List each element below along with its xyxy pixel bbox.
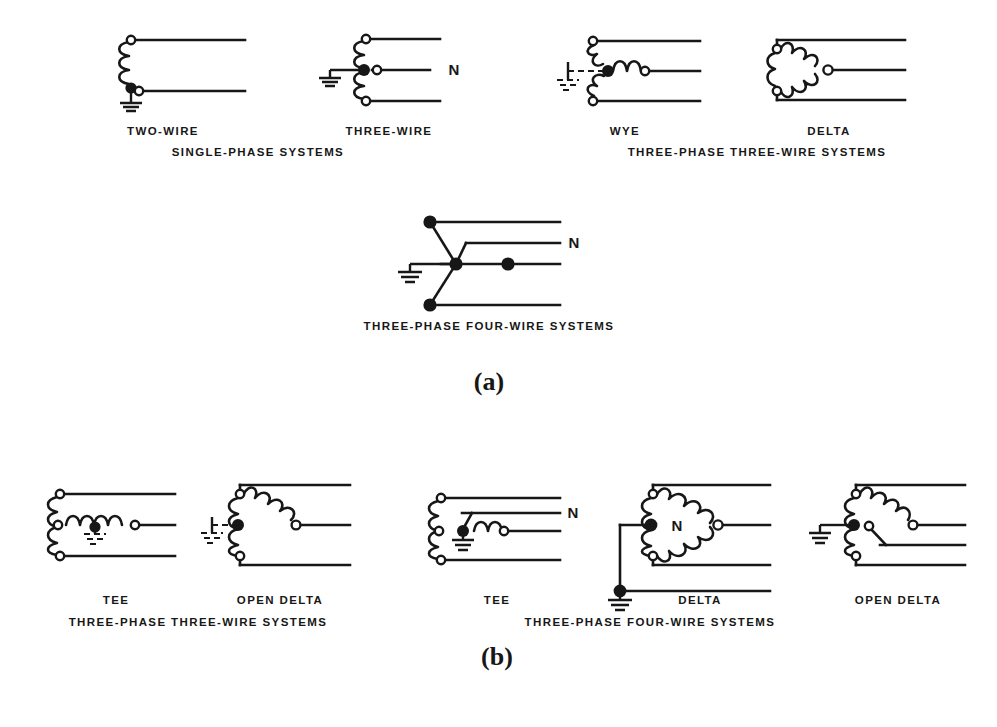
wye-winding-right-icon bbox=[613, 61, 641, 71]
label-single-phase-systems: SINGLE-PHASE SYSTEMS bbox=[172, 146, 344, 158]
caption-panel-b: (b) bbox=[481, 642, 513, 671]
diagram-canvas: TWO-WIRE N THREE-WIRE SINGLE-PHASE SYSTE… bbox=[0, 0, 997, 727]
label-delta-4w: DELTA bbox=[678, 594, 722, 606]
three-wire-terminal-open-center bbox=[373, 66, 381, 74]
label-neutral-four-wire: N bbox=[569, 234, 580, 251]
figure-root: TWO-WIRE N THREE-WIRE SINGLE-PHASE SYSTE… bbox=[0, 0, 997, 727]
od4-winding-upper-icon bbox=[859, 488, 910, 520]
od3-terminal-open-upper bbox=[236, 490, 244, 498]
delta-top-terminal-open-right bbox=[823, 65, 832, 74]
two-wire-terminal-open-bottom bbox=[135, 87, 143, 95]
tee4-terminal-open-right bbox=[500, 527, 508, 535]
od4-ground-icon bbox=[809, 533, 831, 543]
label-two-wire: TWO-WIRE bbox=[127, 125, 199, 137]
diagram-tee-4w bbox=[429, 494, 560, 564]
diagram-delta-4w bbox=[608, 485, 770, 610]
label-delta-top: DELTA bbox=[807, 125, 851, 137]
tee4-ground-icon bbox=[452, 540, 474, 550]
tee3-terminal-open-right bbox=[131, 521, 139, 529]
label-neutral-tee-4w: N bbox=[568, 504, 579, 521]
two-wire-winding-icon bbox=[119, 42, 129, 84]
label-neutral-delta-4w: N bbox=[672, 517, 683, 534]
diagram-open-delta-3w bbox=[201, 485, 350, 565]
three-wire-ground-icon bbox=[319, 78, 341, 86]
label-three-phase-three-wire-b: THREE-PHASE THREE-WIRE SYSTEMS bbox=[69, 616, 328, 628]
label-neutral-three-wire: N bbox=[449, 61, 460, 78]
od4-terminal-open-tap bbox=[865, 522, 873, 530]
tee4-winding-horizontal-icon bbox=[474, 522, 502, 531]
tee4-terminal-open-top bbox=[437, 494, 445, 502]
wye-terminal-open-right bbox=[641, 67, 649, 75]
od4-terminal-open-upper bbox=[852, 490, 860, 498]
four-wire-arm-upper bbox=[430, 222, 456, 264]
od4-terminal-open-right bbox=[909, 521, 918, 530]
od3-terminal-open-lower bbox=[236, 552, 244, 560]
two-wire-terminal-open-top bbox=[127, 36, 135, 44]
wye-terminal-open-top bbox=[589, 37, 597, 45]
label-wye: WYE bbox=[610, 125, 640, 137]
tee3-terminal-open-bottom bbox=[56, 552, 64, 560]
three-wire-winding-lower-icon bbox=[354, 72, 364, 99]
wye-winding-upper-icon bbox=[588, 45, 603, 66]
delta4-winding-upper-icon bbox=[656, 489, 713, 523]
four-wire-terminal-filled-right bbox=[501, 257, 514, 270]
label-tee-3w: TEE bbox=[103, 594, 130, 606]
tee3-ground-icon bbox=[84, 534, 106, 544]
four-wire-ground-icon bbox=[398, 272, 422, 282]
diagram-tee-3w bbox=[48, 490, 175, 560]
od3-winding-upper-icon bbox=[243, 488, 294, 520]
od4-terminal-open-lower bbox=[852, 552, 860, 560]
tee4-terminal-open-bottom bbox=[437, 556, 445, 564]
od3-ground-icon bbox=[201, 533, 223, 543]
three-wire-terminal-open-bottom bbox=[362, 97, 370, 105]
label-open-delta-3w: OPEN DELTA bbox=[237, 594, 323, 606]
label-three-phase-four-wire-b: THREE-PHASE FOUR-WIRE SYSTEMS bbox=[525, 616, 776, 628]
four-wire-terminal-filled-top bbox=[423, 215, 436, 228]
two-wire-ground-icon bbox=[120, 103, 142, 111]
delta-top-winding-upper-icon bbox=[780, 43, 818, 66]
three-wire-terminal-open-top bbox=[362, 35, 370, 43]
wye-ground-icon bbox=[557, 80, 579, 90]
label-three-wire: THREE-WIRE bbox=[346, 125, 433, 137]
four-wire-terminal-filled-bottom bbox=[423, 298, 436, 311]
wye-winding-lower-icon bbox=[588, 75, 604, 96]
diagram-open-delta-4w bbox=[809, 485, 965, 565]
tee3-terminal-open-top bbox=[56, 490, 64, 498]
caption-panel-a: (a) bbox=[474, 367, 504, 396]
diagram-three-wire bbox=[319, 35, 440, 105]
tee3-terminal-open-center bbox=[54, 521, 62, 529]
four-wire-arm-lower bbox=[430, 264, 456, 305]
delta4-terminal-open-right bbox=[713, 520, 722, 529]
three-wire-winding-upper-icon bbox=[354, 41, 364, 68]
wye-terminal-open-bottom bbox=[589, 97, 597, 105]
label-open-delta-4w: OPEN DELTA bbox=[855, 594, 941, 606]
diagram-delta-top bbox=[768, 40, 906, 100]
od3-terminal-open-right bbox=[292, 521, 301, 530]
delta4-terminal-open-lower bbox=[649, 552, 657, 560]
delta-top-winding-left-icon bbox=[768, 53, 776, 86]
diagram-two-wire bbox=[119, 36, 245, 111]
delta-top-terminal-open-upper bbox=[773, 45, 781, 53]
delta4-winding-lower-icon bbox=[656, 527, 713, 561]
label-tee-4w: TEE bbox=[484, 594, 511, 606]
delta4-ground-icon bbox=[608, 600, 632, 610]
label-three-phase-three-wire-a: THREE-PHASE THREE-WIRE SYSTEMS bbox=[628, 146, 887, 158]
tee4-terminal-open-center bbox=[435, 527, 443, 535]
diagram-four-wire-wye bbox=[398, 215, 560, 311]
label-three-phase-four-wire-a: THREE-PHASE FOUR-WIRE SYSTEMS bbox=[364, 320, 615, 332]
delta-top-terminal-open-lower bbox=[773, 87, 781, 95]
delta4-terminal-open-upper bbox=[649, 490, 657, 498]
diagram-wye bbox=[557, 37, 700, 105]
delta-top-winding-lower-icon bbox=[780, 74, 818, 97]
